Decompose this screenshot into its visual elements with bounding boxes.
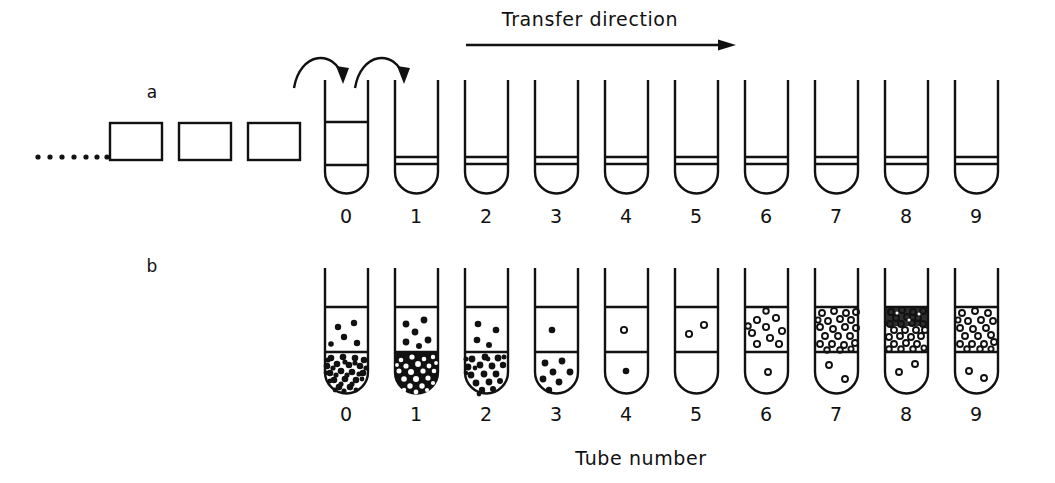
tube-number-label: 3: [550, 205, 562, 227]
curved-transfer-arrow: [294, 58, 349, 88]
tube-number-label: 2: [480, 205, 492, 227]
tube-number-label: 7: [830, 205, 842, 227]
particles-tube-b-6: [745, 308, 785, 375]
tube-number-label: 6: [760, 403, 772, 425]
particles-tube-b-7: [815, 308, 859, 382]
tube-number-label: 4: [620, 403, 632, 425]
tube-number-label: 1: [410, 403, 422, 425]
tube-number-label: 9: [970, 403, 982, 425]
row-label-a: a: [147, 82, 157, 102]
tube-number-label: 6: [760, 205, 772, 227]
tube-a-8: [885, 80, 928, 194]
row-label-b: b: [147, 256, 158, 276]
tube-number-label: 8: [900, 403, 912, 425]
tube-a-0: [325, 80, 368, 194]
tube-a-6: [745, 80, 788, 194]
particles-tube-b-0: [324, 320, 369, 394]
countercurrent-distribution-figure: a Transfer direction: [0, 0, 1055, 483]
schematic-square: [110, 123, 162, 160]
particles-tube-b-9: [955, 308, 997, 381]
schematic-square: [248, 123, 300, 160]
particles-tube-b-1: [395, 317, 438, 395]
particles-tube-b-8: [886, 307, 928, 375]
ellipsis-dots: [35, 154, 109, 159]
transfer-arrow-group: [294, 58, 410, 88]
transfer-direction-text: Transfer direction: [501, 8, 679, 30]
curved-transfer-arrow: [355, 58, 410, 88]
axis-caption-tube-number: Tube number: [574, 447, 706, 469]
tube-number-label: 2: [480, 403, 492, 425]
tube-number-label: 3: [550, 403, 562, 425]
tube-a-9: [955, 80, 998, 194]
tube-a-4: [605, 80, 648, 194]
particles-tube-b-3: [540, 327, 574, 393]
particles-tube-b-4: [621, 327, 629, 374]
row-a-number-labels: 0 1 2 3 4 5 6 7 8 9: [340, 205, 982, 227]
tube-a-5: [675, 80, 718, 193]
tube-number-label: 9: [970, 205, 982, 227]
tube-number-label: 0: [340, 205, 352, 227]
particles-tube-b-5: [686, 322, 707, 337]
tube-number-label: 0: [340, 403, 352, 425]
row-a-tubes: [325, 80, 998, 194]
tube-a-1: [395, 80, 438, 194]
figure-canvas: a Transfer direction: [0, 0, 1055, 483]
transfer-direction-arrow: [466, 40, 736, 51]
tube-a-7: [815, 80, 858, 194]
row-b-number-labels: 0 1 2 3 4 5 6 7 8 9: [340, 403, 982, 425]
tube-number-label: 8: [900, 205, 912, 227]
schematic-square: [179, 123, 231, 160]
tube-b-5: [675, 268, 718, 393]
tube-number-label: 4: [620, 205, 632, 227]
tube-number-label: 1: [410, 205, 422, 227]
tube-number-label: 7: [830, 403, 842, 425]
tube-number-label: 5: [690, 205, 702, 227]
tube-number-label: 5: [690, 403, 702, 425]
tube-a-2: [465, 80, 508, 194]
tube-a-3: [535, 80, 578, 194]
schematic-square-group: [110, 123, 300, 160]
